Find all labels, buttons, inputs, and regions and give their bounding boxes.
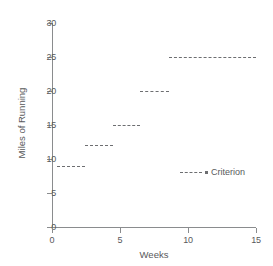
x-tick-10 <box>188 228 189 233</box>
criterion-segment-3 <box>113 125 140 126</box>
y-tick-label-30: 30 <box>32 19 56 28</box>
x-axis-line <box>52 227 256 228</box>
y-tick-label-5: 5 <box>32 189 56 198</box>
legend-square-marker <box>205 171 208 174</box>
x-tick-label-15: 15 <box>241 236 271 245</box>
y-tick-label-25: 25 <box>32 53 56 62</box>
x-tick-5 <box>120 228 121 233</box>
y-tick-label-15: 15 <box>32 121 56 130</box>
criterion-segment-5 <box>169 57 256 58</box>
x-tick-label-0: 0 <box>37 236 67 245</box>
legend-dash-swatch <box>180 172 202 173</box>
y-axis-title: Miles of Running <box>17 53 27 193</box>
x-axis-title: Weeks <box>52 250 256 260</box>
criterion-segment-1 <box>57 166 84 167</box>
x-tick-label-5: 5 <box>105 236 135 245</box>
criterion-segment-2 <box>85 145 114 146</box>
y-tick-label-10: 10 <box>32 155 56 164</box>
x-tick-15 <box>256 228 257 233</box>
legend-item-criterion: Criterion <box>211 168 245 177</box>
x-tick-0 <box>52 228 53 233</box>
chart-figure: 051015202530 051015 Miles of Running Wee… <box>0 0 273 266</box>
x-tick-label-10: 10 <box>173 236 203 245</box>
criterion-segment-4 <box>140 91 169 92</box>
chart-legend: Criterion <box>180 168 245 177</box>
y-tick-label-20: 20 <box>32 87 56 96</box>
